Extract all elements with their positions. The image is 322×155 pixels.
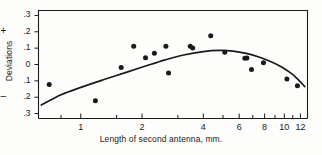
chart-canvas — [0, 0, 322, 155]
y-tick-label: .1 — [5, 75, 31, 85]
y-tick-label: .3 — [5, 9, 31, 19]
plot-frame — [39, 11, 308, 119]
y-axis-ticks — [35, 15, 39, 113]
chart-figure: + – Deviations Length of second antenna,… — [0, 0, 322, 155]
x-tick-label: 12 — [290, 122, 310, 132]
x-axis-caption: Length of second antenna, mm. — [0, 134, 322, 144]
x-tick-label: 4 — [193, 122, 213, 132]
y-tick-label: 0 — [5, 59, 31, 69]
x-tick-label: 2 — [132, 122, 152, 132]
x-tick-label: 8 — [255, 122, 275, 132]
x-axis-ticks — [61, 114, 300, 119]
y-tick-label: .2 — [5, 26, 31, 36]
y-tick-label: .2 — [5, 91, 31, 101]
y-tick-label: .1 — [5, 42, 31, 52]
fitted-curve — [41, 50, 304, 105]
y-tick-label: .3 — [5, 108, 31, 118]
x-tick-label: 1 — [71, 122, 91, 132]
x-tick-label: 6 — [229, 122, 249, 132]
data-points — [47, 33, 300, 103]
